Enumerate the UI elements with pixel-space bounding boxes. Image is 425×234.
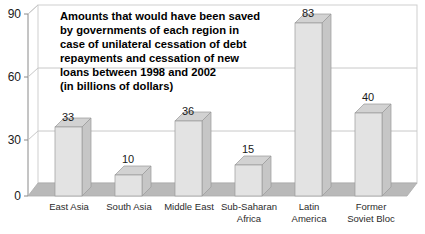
x-label-latin-america-line1: Latin <box>299 201 320 212</box>
x-label-south-asia: South Asia <box>106 201 152 212</box>
y-tick-label-30: 30 <box>8 133 22 147</box>
y-axis-ticks <box>24 14 28 196</box>
y-tick-label-0: 0 <box>14 189 21 203</box>
title-line-5: loans between 1998 and 2002 <box>60 66 216 78</box>
bar-side-face <box>82 118 91 196</box>
gridline-connector-30 <box>28 131 38 140</box>
bar-front-face <box>295 23 322 196</box>
y-axis-labels: 0 30 60 90 <box>8 7 22 203</box>
bar-front-face <box>55 127 82 196</box>
title-line-2: by governments of each region in <box>60 24 239 36</box>
bar-front-face <box>235 165 262 196</box>
y-tick-label-60: 60 <box>8 70 22 84</box>
bar-side-face <box>382 104 391 196</box>
title-line-4: repayments and cessation of new <box>60 52 239 64</box>
bar-value-label: 40 <box>362 91 374 103</box>
x-label-sub-saharan-africa-line1: Sub-Saharan <box>221 201 277 212</box>
bar-value-label: 10 <box>122 153 134 165</box>
bar-chart-figure: 0 30 60 90 33 10 36 <box>0 0 425 234</box>
title-line-6: (in billions of dollars) <box>60 80 173 92</box>
bar-front-face <box>175 121 202 196</box>
x-label-former-soviet-bloc-line1: Former <box>356 201 387 212</box>
bar-value-label: 15 <box>242 143 254 155</box>
chart-canvas: 0 30 60 90 33 10 36 <box>0 0 425 234</box>
bar-east-asia[interactable]: 33 <box>55 111 91 196</box>
x-axis-labels: East Asia South Asia Middle East Sub-Sah… <box>49 201 395 224</box>
title-line-1: Amounts that would have been saved <box>60 10 260 22</box>
x-label-sub-saharan-africa-line2: Africa <box>237 213 262 224</box>
y-tick-label-90: 90 <box>8 7 22 21</box>
bar-value-label: 36 <box>182 105 194 117</box>
gridline-connector-60 <box>28 68 38 77</box>
title-line-3: case of unilateral cessation of debt <box>60 38 247 50</box>
bar-middle-east[interactable]: 36 <box>175 105 211 196</box>
x-label-east-asia: East Asia <box>49 201 89 212</box>
bar-side-face <box>322 14 331 196</box>
bar-front-face <box>115 175 142 196</box>
bar-front-face <box>355 113 382 196</box>
bar-value-label: 83 <box>302 7 314 19</box>
gridline-connector-90 <box>28 5 38 14</box>
x-label-middle-east: Middle East <box>164 201 214 212</box>
x-label-former-soviet-bloc-line2: Soviet Bloc <box>347 213 395 224</box>
bar-value-label: 33 <box>62 111 74 123</box>
bar-latin-america[interactable]: 83 <box>295 7 331 196</box>
bar-side-face <box>202 112 211 196</box>
x-label-latin-america-line2: America <box>292 213 328 224</box>
